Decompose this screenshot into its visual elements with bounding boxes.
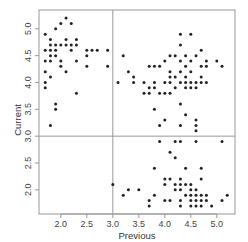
data-point: [54, 49, 57, 52]
data-point: [75, 38, 78, 41]
data-point: [153, 167, 156, 170]
data-point: [158, 92, 161, 95]
data-point: [221, 140, 224, 143]
y-tick-label: 3.5: [23, 103, 33, 116]
data-point: [174, 156, 177, 159]
data-point: [122, 194, 125, 197]
y-tick-label: 5.0: [23, 23, 33, 36]
data-point: [127, 70, 130, 73]
x-tick-label: 4.5: [185, 219, 198, 229]
data-point: [179, 178, 182, 181]
data-point: [106, 65, 109, 68]
data-point: [189, 33, 192, 36]
data-point: [184, 54, 187, 57]
data-point: [189, 81, 192, 84]
data-point: [163, 60, 166, 63]
data-point: [75, 60, 78, 63]
data-point: [195, 204, 198, 207]
data-point: [205, 65, 208, 68]
x-tick-label: 2.0: [55, 219, 68, 229]
data-point: [117, 81, 120, 84]
data-point: [195, 119, 198, 122]
data-point: [54, 108, 57, 111]
x-tick-label: 3.0: [107, 219, 120, 229]
data-point: [163, 183, 166, 186]
data-point: [200, 81, 203, 84]
data-point: [200, 178, 203, 181]
data-point: [143, 92, 146, 95]
data-point: [210, 204, 213, 207]
y-tick-label: 2.0: [23, 184, 33, 197]
data-point: [70, 43, 73, 46]
data-point: [200, 65, 203, 68]
data-point: [163, 119, 166, 122]
data-point: [137, 188, 140, 191]
data-point: [205, 194, 208, 197]
data-point: [44, 86, 47, 89]
data-point: [85, 49, 88, 52]
data-point: [49, 54, 52, 57]
data-point: [179, 81, 182, 84]
data-point: [153, 86, 156, 89]
data-point: [65, 17, 68, 20]
data-point: [96, 49, 99, 52]
data-point: [200, 49, 203, 52]
x-tick-label: 4.0: [159, 219, 172, 229]
data-point: [169, 178, 172, 181]
data-point: [163, 81, 166, 84]
data-point: [184, 194, 187, 197]
data-point: [158, 124, 161, 127]
data-point: [195, 140, 198, 143]
data-point: [163, 199, 166, 202]
data-point: [179, 43, 182, 46]
data-point: [189, 86, 192, 89]
data-point: [179, 124, 182, 127]
data-point: [143, 81, 146, 84]
data-point: [70, 49, 73, 52]
plot-frame: [39, 10, 235, 214]
data-point: [75, 43, 78, 46]
data-point: [59, 43, 62, 46]
data-point: [148, 92, 151, 95]
data-point: [179, 188, 182, 191]
data-point: [49, 49, 52, 52]
data-point: [179, 70, 182, 73]
data-point: [200, 76, 203, 79]
data-point: [195, 129, 198, 132]
data-point: [221, 199, 224, 202]
data-point: [189, 60, 192, 63]
data-point: [75, 92, 78, 95]
data-point: [85, 54, 88, 57]
data-point: [200, 199, 203, 202]
data-point: [153, 65, 156, 68]
data-point: [54, 54, 57, 57]
y-axis-title: Current: [12, 104, 23, 136]
data-point: [184, 113, 187, 116]
data-point: [205, 81, 208, 84]
data-point: [148, 65, 151, 68]
data-point: [169, 76, 172, 79]
data-point: [205, 199, 208, 202]
data-points: [44, 17, 229, 208]
data-point: [195, 194, 198, 197]
data-point: [153, 108, 156, 111]
data-point: [195, 199, 198, 202]
y-tick-label: 4.0: [23, 76, 33, 89]
data-point: [179, 33, 182, 36]
data-point: [179, 102, 182, 105]
data-point: [169, 54, 172, 57]
data-point: [184, 81, 187, 84]
data-point: [158, 65, 161, 68]
data-point: [200, 167, 203, 170]
data-point: [148, 199, 151, 202]
data-point: [49, 43, 52, 46]
data-point: [106, 49, 109, 52]
data-point: [195, 124, 198, 127]
data-point: [91, 49, 94, 52]
reference-lines: [39, 10, 235, 214]
data-point: [179, 199, 182, 202]
data-point: [221, 65, 224, 68]
data-point: [49, 60, 52, 63]
data-point: [65, 43, 68, 46]
data-point: [59, 22, 62, 25]
